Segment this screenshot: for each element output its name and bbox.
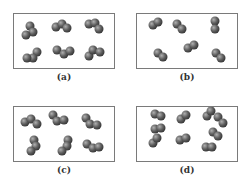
molecule-diagram-b — [137, 14, 239, 70]
panel-a — [13, 13, 115, 69]
panel-d — [136, 106, 238, 162]
molecule-diagram-d — [137, 107, 239, 163]
panel-c — [13, 106, 115, 162]
molecule-diagram-c — [14, 107, 116, 163]
molecule-diagram-a — [14, 14, 116, 70]
panel-b — [136, 13, 238, 69]
panel-label-c: (c) — [13, 165, 115, 175]
panel-label-d: (d) — [136, 165, 238, 175]
panel-label-b: (b) — [136, 72, 238, 82]
panel-label-a: (a) — [13, 72, 115, 82]
